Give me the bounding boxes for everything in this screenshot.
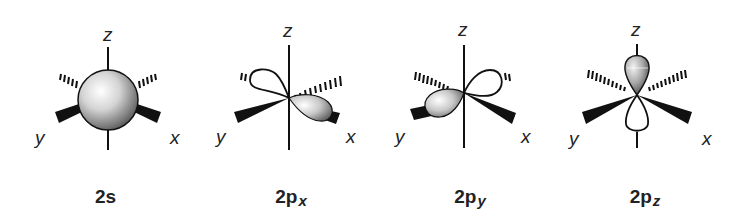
- orbital-label-2px: 2px: [275, 186, 307, 208]
- orbital-label-subscript: z: [653, 192, 661, 209]
- orbital-2s-diagram: z y x: [33, 24, 181, 150]
- y-axis-label: y: [393, 126, 406, 147]
- orbital-label-2s: 2s: [95, 186, 117, 208]
- hashed-bond-back-left: [241, 73, 246, 81]
- hashed-bond-back-left: [588, 70, 625, 91]
- x-axis-label: x: [520, 126, 532, 147]
- y-axis-label: y: [567, 128, 580, 149]
- orbital-label-main: 2p: [275, 186, 297, 207]
- y-axis-label: y: [33, 127, 46, 148]
- x-axis-label: x: [701, 128, 713, 149]
- orbital-2pz-diagram: z y x: [567, 19, 713, 149]
- p-orbital-open-lobe: [250, 69, 289, 98]
- p-orbital-shaded-lobe: [625, 56, 649, 96]
- z-axis-label: z: [630, 19, 641, 40]
- s-orbital-sphere: [78, 70, 138, 130]
- p-orbital-open-lobe: [626, 95, 648, 131]
- orbital-label-2pz: 2pz: [630, 186, 661, 208]
- p-orbital-open-lobe: [464, 70, 502, 96]
- orbital-label-2py: 2py: [454, 186, 486, 208]
- x-axis-label: x: [169, 127, 181, 148]
- z-axis-label: z: [102, 24, 113, 45]
- p-orbital-shaded-lobe: [289, 95, 332, 121]
- orbital-label-subscript: x: [298, 192, 306, 209]
- z-axis-label: z: [282, 20, 293, 41]
- x-axis-label: x: [345, 126, 357, 147]
- p-orbital-shaded-lobe: [425, 89, 464, 117]
- orbital-figure: z y x z y x: [0, 0, 743, 217]
- x-axis-wedge: [464, 93, 516, 124]
- orbital-2py-diagram: z y x: [393, 19, 532, 148]
- y-axis-wedge: [234, 98, 289, 123]
- orbital-label-main: 2p: [630, 186, 652, 207]
- hashed-bond-back-left: [415, 72, 448, 90]
- orbital-label-main: 2s: [95, 186, 116, 207]
- hashed-bond-back-right: [649, 70, 686, 91]
- z-axis-label: z: [457, 19, 468, 40]
- hashed-bond-back-right: [505, 73, 510, 81]
- orbital-label-main: 2p: [454, 186, 476, 207]
- hashed-bond-back-right: [139, 74, 156, 88]
- orbital-label-subscript: y: [477, 192, 485, 209]
- orbital-2px-diagram: z y x: [214, 20, 357, 150]
- hashed-bond-back-left: [60, 74, 77, 88]
- y-axis-label: y: [214, 126, 227, 147]
